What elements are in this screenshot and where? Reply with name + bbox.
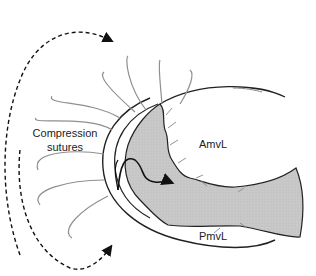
anterior-leaflet-label: AmvL: [199, 137, 227, 151]
sutures-label: sutures: [30, 140, 100, 154]
compression-label: Compression: [30, 126, 100, 140]
posterior-leaflet-label: PmvL: [199, 229, 227, 243]
coaptation-tissue: [125, 104, 303, 237]
diagram-canvas: Compression sutures AmvL PmvL: [0, 0, 316, 276]
